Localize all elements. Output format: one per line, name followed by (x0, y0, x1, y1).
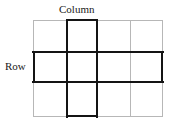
grid-cells (33, 20, 162, 116)
cell-r3c4[interactable] (130, 82, 162, 116)
grid-svg (0, 0, 174, 126)
cell-r1c3[interactable] (97, 20, 130, 51)
cell-r3c2[interactable] (66, 82, 97, 116)
cell-r3c3[interactable] (97, 82, 130, 116)
cell-r1c1[interactable] (33, 20, 66, 51)
grid-area (0, 0, 174, 126)
cell-r1c4[interactable] (130, 20, 162, 51)
grid-diagram-figure: Column Row (0, 0, 174, 126)
cell-r2c3[interactable] (97, 51, 130, 82)
cell-r2c2[interactable] (66, 51, 97, 82)
cell-r2c1[interactable] (33, 51, 66, 82)
cell-r3c1[interactable] (33, 82, 66, 116)
cell-r1c2[interactable] (66, 20, 97, 51)
cell-r2c4[interactable] (130, 51, 162, 82)
